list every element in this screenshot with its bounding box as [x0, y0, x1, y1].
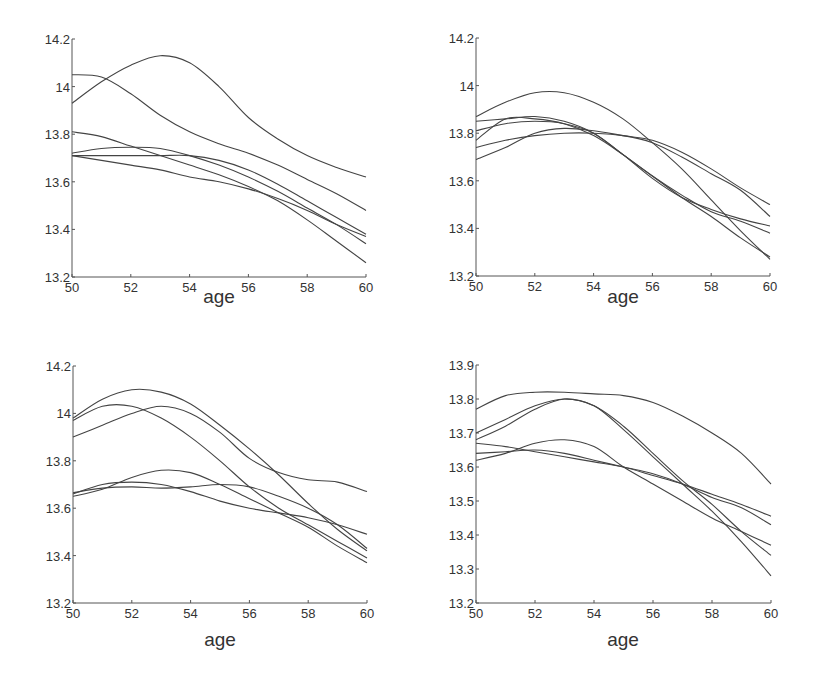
- y-tick-label: 13.5: [449, 494, 474, 509]
- panel-bottom-left: 13.213.413.613.81414.2505254565860 age: [46, 359, 375, 650]
- y-tick-label: 14: [57, 406, 71, 421]
- x-tick-label: 52: [125, 606, 139, 621]
- x-tick-label: 56: [646, 606, 660, 621]
- curve-line: [476, 399, 771, 555]
- x-tick-label: 60: [360, 606, 374, 621]
- x-tick-label: 58: [704, 279, 718, 294]
- curve-line: [476, 392, 771, 484]
- x-tick-label: 54: [586, 279, 600, 294]
- curve-line: [72, 156, 366, 237]
- axes: 13.213.413.613.81414.2505254565860: [449, 31, 778, 294]
- panel-top-left: 13.213.413.613.81414.2505254565860 age: [45, 32, 374, 307]
- x-tick-label: 50: [469, 606, 483, 621]
- y-tick-label: 13.8: [449, 126, 474, 141]
- y-tick-label: 13.8: [45, 127, 70, 142]
- y-tick-label: 14.2: [46, 359, 71, 374]
- y-tick-label: 13.9: [449, 358, 474, 373]
- x-tick-label: 56: [645, 279, 659, 294]
- curve-line: [476, 121, 770, 257]
- y-tick-label: 13.7: [449, 426, 474, 441]
- x-axis-label: age: [204, 629, 236, 650]
- y-tick-label: 13.6: [449, 460, 474, 475]
- curves: [72, 56, 366, 263]
- curve-line: [476, 116, 770, 226]
- curve-line: [476, 450, 771, 525]
- y-tick-label: 13.8: [449, 392, 474, 407]
- axis-lines: [476, 365, 771, 603]
- curve-line: [73, 389, 367, 551]
- x-axis-label: age: [607, 286, 639, 307]
- x-tick-label: 56: [241, 280, 255, 295]
- y-tick-label: 13.3: [449, 562, 474, 577]
- y-tick-label: 13.6: [449, 174, 474, 189]
- y-tick-label: 14: [56, 80, 70, 95]
- y-tick-label: 14: [460, 79, 474, 94]
- figure: 13.213.413.613.81414.2505254565860 age 1…: [0, 0, 819, 677]
- axis-lines: [72, 39, 366, 277]
- curves: [476, 92, 770, 260]
- curve-line: [476, 128, 770, 204]
- y-tick-label: 14.2: [449, 31, 474, 46]
- y-tick-label: 13.6: [45, 175, 70, 190]
- curve-line: [73, 406, 367, 491]
- curve-line: [476, 133, 770, 217]
- y-tick-label: 13.8: [46, 454, 71, 469]
- x-tick-label: 52: [528, 606, 542, 621]
- x-tick-label: 54: [183, 606, 197, 621]
- y-tick-label: 13.4: [46, 549, 71, 564]
- axes: 13.213.413.613.81414.2505254565860: [46, 359, 375, 621]
- y-tick-label: 14.2: [45, 32, 70, 47]
- x-tick-label: 50: [65, 280, 79, 295]
- y-tick-label: 13.6: [46, 501, 71, 516]
- x-tick-label: 58: [300, 280, 314, 295]
- curve-line: [476, 443, 771, 516]
- curves: [476, 392, 771, 576]
- x-tick-label: 60: [763, 279, 777, 294]
- curve-line: [72, 56, 366, 177]
- x-tick-label: 50: [469, 279, 483, 294]
- axes: 13.213.413.613.81414.2505254565860: [45, 32, 374, 295]
- x-axis-label: age: [203, 286, 235, 307]
- x-tick-label: 60: [764, 606, 778, 621]
- y-tick-label: 13.4: [449, 221, 474, 236]
- panel-top-right: 13.213.413.613.81414.2505254565860 age: [449, 31, 778, 307]
- curve-line: [476, 440, 771, 546]
- x-tick-label: 58: [301, 606, 315, 621]
- curve-line: [72, 132, 366, 263]
- x-tick-label: 54: [587, 606, 601, 621]
- panel-bottom-right: 13.213.313.413.513.613.713.813.950525456…: [449, 358, 779, 650]
- x-tick-label: 56: [242, 606, 256, 621]
- curve-line: [72, 75, 366, 211]
- x-tick-label: 60: [359, 280, 373, 295]
- y-tick-label: 13.4: [449, 528, 474, 543]
- x-tick-label: 52: [124, 280, 138, 295]
- x-tick-label: 50: [66, 606, 80, 621]
- x-tick-label: 52: [528, 279, 542, 294]
- y-tick-label: 13.4: [45, 222, 70, 237]
- x-tick-label: 54: [182, 280, 196, 295]
- curves: [73, 389, 367, 562]
- x-tick-label: 58: [705, 606, 719, 621]
- curve-line: [73, 482, 367, 534]
- curve-line: [72, 155, 366, 234]
- axis-lines: [476, 38, 770, 276]
- x-axis-label: age: [607, 629, 639, 650]
- axes: 13.213.313.413.513.613.713.813.950525456…: [449, 358, 779, 621]
